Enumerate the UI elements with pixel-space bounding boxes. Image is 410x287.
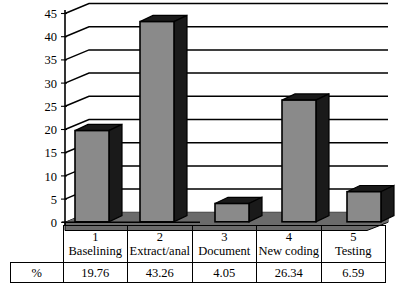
- table-row-header: 1 Baselining 2 Extract/anal 3 Document 4…: [11, 226, 386, 263]
- header-number-1: 1: [64, 230, 128, 244]
- value-cell-3: 4.05: [192, 263, 257, 283]
- table-row-percent: % 19.76 43.26 4.05 26.34 6.59: [11, 263, 386, 283]
- header-name-5: Testing: [322, 244, 386, 258]
- bar-testing: [347, 186, 394, 222]
- y-tick-15: 15: [45, 146, 58, 160]
- y-axis-labels: 45 40 35 30 25 20 15 10 5 0: [45, 7, 58, 230]
- y-tick-25: 25: [45, 100, 58, 114]
- chart-figure: 45 40 35 30 25 20 15 10 5 0: [0, 0, 410, 287]
- header-number-5: 5: [322, 230, 386, 244]
- y-tick-35: 35: [45, 53, 58, 67]
- value-cell-2: 43.26: [128, 263, 193, 283]
- header-number-3: 3: [193, 230, 257, 244]
- y-tick-30: 30: [45, 77, 58, 91]
- value-cell-1: 19.76: [63, 263, 128, 283]
- y-tick-45: 45: [45, 7, 58, 21]
- table-header-2: 2 Extract/anal: [128, 226, 193, 263]
- value-cell-5: 6.59: [321, 263, 386, 283]
- data-table: 1 Baselining 2 Extract/anal 3 Document 4…: [10, 225, 386, 283]
- bar-chart-3d: 45 40 35 30 25 20 15 10 5 0: [0, 0, 410, 232]
- y-tick-40: 40: [45, 30, 58, 44]
- header-number-4: 4: [257, 230, 321, 244]
- header-number-2: 2: [128, 230, 192, 244]
- y-axis-ticks: [61, 14, 67, 223]
- header-name-4: New coding: [257, 244, 321, 258]
- header-name-3: Document: [193, 244, 257, 258]
- header-name-2: Extract/anal: [128, 244, 192, 258]
- bar-document: [215, 197, 262, 222]
- chart-canvas: 45 40 35 30 25 20 15 10 5 0: [0, 0, 410, 232]
- y-tick-20: 20: [45, 123, 58, 137]
- table-corner-cell: [11, 226, 64, 263]
- header-name-1: Baselining: [64, 244, 128, 258]
- row-label-percent: %: [11, 263, 64, 283]
- y-tick-5: 5: [51, 193, 57, 207]
- bar-extract-anal: [140, 15, 187, 221]
- table-header-1: 1 Baselining: [63, 226, 128, 263]
- value-cell-4: 26.34: [257, 263, 322, 283]
- bar-baselining: [75, 124, 122, 221]
- bar-new-coding: [282, 94, 329, 222]
- y-tick-10: 10: [45, 170, 58, 184]
- table-header-4: 4 New coding: [257, 226, 322, 263]
- table-header-3: 3 Document: [192, 226, 257, 263]
- table-header-5: 5 Testing: [321, 226, 386, 263]
